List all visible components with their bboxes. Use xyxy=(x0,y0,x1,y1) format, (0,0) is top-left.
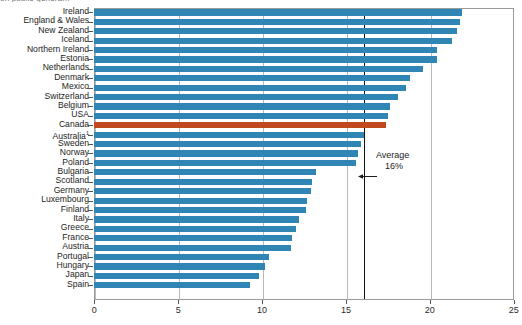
x-axis-tick-label: 25 xyxy=(509,305,519,315)
x-axis-tick xyxy=(430,300,431,304)
category-tick xyxy=(88,276,93,277)
bar xyxy=(94,235,292,241)
category-tick xyxy=(88,210,93,211)
bar xyxy=(94,179,312,185)
bar xyxy=(94,56,436,62)
category-tick xyxy=(88,191,93,192)
category-tick xyxy=(88,182,93,183)
x-axis: 0510152025 xyxy=(0,300,522,325)
category-tick xyxy=(88,285,93,286)
bar xyxy=(94,113,388,119)
bar xyxy=(94,169,315,175)
category-tick xyxy=(88,12,93,13)
bar xyxy=(94,216,299,222)
bar xyxy=(94,273,258,279)
bar xyxy=(94,9,461,15)
x-axis-tick-label: 10 xyxy=(257,305,267,315)
bar xyxy=(94,141,361,147)
bar xyxy=(94,103,389,109)
bar xyxy=(94,94,398,100)
bar xyxy=(94,263,265,269)
category-tick xyxy=(88,31,93,32)
x-axis-tick-label: 15 xyxy=(341,305,351,315)
bar xyxy=(94,226,295,232)
category-tick xyxy=(88,219,93,220)
category-tick xyxy=(88,163,93,164)
average-annotation-label: Average xyxy=(376,150,409,160)
category-tick xyxy=(88,50,93,51)
bar xyxy=(94,38,451,44)
average-annotation-value: 16% xyxy=(376,161,409,172)
category-tick xyxy=(88,116,93,117)
bar xyxy=(94,122,386,128)
category-tick xyxy=(88,69,93,70)
bar xyxy=(94,198,307,204)
category-tick xyxy=(88,41,93,42)
x-axis-tick xyxy=(514,300,515,304)
chart-container: on public genera... IrelandEngland & Wal… xyxy=(0,0,522,325)
category-tick xyxy=(88,153,93,154)
category-tick xyxy=(88,59,93,60)
bar xyxy=(94,245,290,251)
x-axis-tick xyxy=(262,300,263,304)
bar xyxy=(94,282,250,288)
category-tick xyxy=(88,144,93,145)
category-tick xyxy=(88,172,93,173)
category-tick xyxy=(88,88,93,89)
bar xyxy=(94,132,364,138)
bar xyxy=(94,254,268,260)
category-tick xyxy=(88,135,93,136)
bar xyxy=(94,160,356,166)
x-axis-tick-label: 0 xyxy=(92,305,97,315)
bar xyxy=(94,28,456,34)
bar-rows: IrelandEngland & WalesNew ZealandIceland… xyxy=(0,8,522,300)
x-axis-tick xyxy=(94,300,95,304)
bar xyxy=(94,19,460,25)
category-label: Spain xyxy=(0,280,89,290)
bar xyxy=(94,75,409,81)
x-axis-tick xyxy=(178,300,179,304)
chart-caption: on public genera... xyxy=(0,0,200,2)
category-label: Canada xyxy=(0,120,89,130)
bar xyxy=(94,207,305,213)
category-tick xyxy=(88,266,93,267)
category-tick xyxy=(88,229,93,230)
category-tick xyxy=(88,201,93,202)
category-tick xyxy=(88,97,93,98)
category-tick xyxy=(88,248,93,249)
category-tick xyxy=(88,106,93,107)
category-tick xyxy=(88,125,93,126)
bar xyxy=(94,66,423,72)
x-axis-tick-label: 5 xyxy=(176,305,181,315)
bar-row: Spain xyxy=(0,281,522,290)
bar xyxy=(94,188,310,194)
category-tick xyxy=(88,78,93,79)
x-axis-tick xyxy=(346,300,347,304)
bar xyxy=(94,47,436,53)
category-tick xyxy=(88,257,93,258)
left-arrow-icon xyxy=(358,172,377,181)
x-axis-tick-label: 20 xyxy=(425,305,435,315)
bar xyxy=(94,150,357,156)
bar xyxy=(94,85,406,91)
category-tick xyxy=(88,22,93,23)
category-tick xyxy=(88,238,93,239)
average-annotation: Average 16% xyxy=(376,150,409,172)
